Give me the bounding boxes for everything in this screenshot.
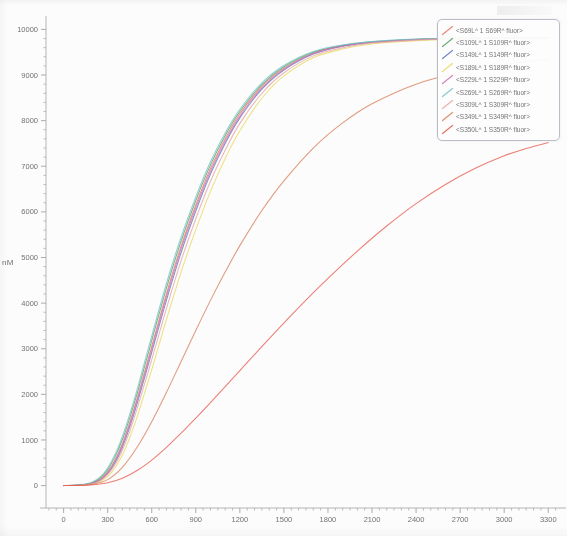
y-axis-tick-label: 1000 <box>21 436 38 445</box>
legend-item-label: <S309L^ 1 S309R^ fluor> <box>456 101 530 108</box>
y-axis-tick-label: 7000 <box>21 162 38 171</box>
y-axis-tick-label: 2000 <box>21 390 38 399</box>
chart-page: 0100020003000400050006000700080009000100… <box>0 0 567 536</box>
legend-item-label: <S69L^ 1 S69R^ fluor> <box>456 27 523 34</box>
y-axis-tick-label: 5000 <box>21 253 38 262</box>
legend-item[interactable]: <S309L^ 1 S309R^ fluor> <box>441 98 556 110</box>
legend-item[interactable]: <S229L^ 1 S229R^ fluor> <box>441 74 556 86</box>
x-axis-tick-label: 3000 <box>496 515 513 524</box>
chart-legend: <S69L^ 1 S69R^ fluor><S109L^ 1 S109R^ fl… <box>437 19 560 141</box>
y-axis-tick-label: 6000 <box>21 207 38 216</box>
legend-color-swatch-icon <box>441 37 454 48</box>
legend-color-swatch-icon <box>441 99 454 110</box>
legend-item-label: <S350L^ 1 S350R^ fluor> <box>456 126 530 133</box>
x-axis-tick-label: 1500 <box>276 515 293 524</box>
x-axis-tick-label: 600 <box>145 515 158 524</box>
x-axis-tick-label: 2700 <box>452 515 469 524</box>
scan-artifact <box>497 6 552 15</box>
x-axis-tick-label: 1200 <box>232 515 249 524</box>
x-axis-tick-label: 2100 <box>364 515 381 524</box>
x-axis-tick-label: 1800 <box>320 515 337 524</box>
legend-item-label: <S109L^ 1 S109R^ fluor> <box>456 39 530 46</box>
legend-item[interactable]: <S350L^ 1 S350R^ fluor> <box>441 123 556 135</box>
legend-item-label: <S269L^ 1 S269R^ fluor> <box>456 88 530 95</box>
x-axis-tick-label: 900 <box>190 515 203 524</box>
y-axis-tick-label: 4000 <box>21 299 38 308</box>
y-axis-tick-label: 3000 <box>21 344 38 353</box>
y-axis-title: nM <box>2 258 14 267</box>
legend-item[interactable]: <S349L^ 1 S349R^ fluor> <box>441 111 556 123</box>
legend-item-label: <S349L^ 1 S349R^ fluor> <box>456 113 530 120</box>
series-line <box>64 143 549 486</box>
x-axis-tick-label: 0 <box>62 515 66 524</box>
legend-color-swatch-icon <box>441 124 454 135</box>
legend-item[interactable]: <S189L^ 1 S189R^ fluor> <box>441 61 556 73</box>
legend-color-swatch-icon <box>441 49 454 60</box>
x-axis-tick-label: 2400 <box>408 515 425 524</box>
legend-item[interactable]: <S69L^ 1 S69R^ fluor> <box>441 24 556 36</box>
legend-item[interactable]: <S269L^ 1 S269R^ fluor> <box>441 86 556 98</box>
y-axis-tick-label: 8000 <box>21 116 38 125</box>
legend-item[interactable]: <S149L^ 1 S149R^ fluor> <box>441 49 556 61</box>
legend-color-swatch-icon <box>441 111 454 122</box>
legend-item-label: <S149L^ 1 S149R^ fluor> <box>456 51 530 58</box>
legend-item-label: <S189L^ 1 S189R^ fluor> <box>456 64 530 71</box>
y-axis-tick-label: 0 <box>34 481 38 490</box>
y-axis-tick-label: 9000 <box>21 71 38 80</box>
legend-item-label: <S229L^ 1 S229R^ fluor> <box>456 76 530 83</box>
legend-color-swatch-icon <box>441 74 454 85</box>
legend-color-swatch-icon <box>441 25 454 36</box>
x-axis-tick-label: 3300 <box>540 515 557 524</box>
legend-color-swatch-icon <box>441 87 454 98</box>
legend-item[interactable]: <S109L^ 1 S109R^ fluor> <box>441 36 556 48</box>
y-axis-tick-label: 10000 <box>17 25 38 34</box>
x-axis-tick-label: 300 <box>101 515 114 524</box>
legend-color-swatch-icon <box>441 62 454 73</box>
